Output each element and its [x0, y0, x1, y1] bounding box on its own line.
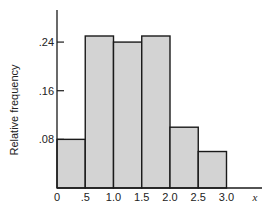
y-ticks: .08.16.24	[39, 36, 64, 145]
x-tick-label: 1.5	[134, 191, 149, 203]
x-axis-label: x	[252, 191, 258, 203]
x-ticks: 0.51.01.52.02.53.0	[54, 191, 234, 203]
histogram-bar	[85, 36, 113, 188]
x-tick-label: .5	[81, 191, 90, 203]
histogram-bar	[142, 36, 170, 188]
x-tick-label: 2.5	[191, 191, 206, 203]
x-tick-label: 2.0	[162, 191, 177, 203]
histogram-chart: .08.16.24 0.51.01.52.02.53.0 Relative fr…	[0, 0, 271, 209]
x-tick-label: 0	[54, 191, 60, 203]
histogram-bar	[170, 127, 198, 188]
y-axis-label: Relative frequency	[8, 64, 20, 156]
histogram-bar	[114, 42, 142, 188]
histogram-bars	[57, 36, 227, 188]
x-tick-label: 1.0	[106, 191, 121, 203]
histogram-bar	[198, 152, 226, 188]
y-tick-label: .24	[39, 36, 54, 48]
y-tick-label: .08	[39, 133, 54, 145]
y-tick-label: .16	[39, 85, 54, 97]
histogram-bar	[57, 139, 85, 188]
x-tick-label: 3.0	[219, 191, 234, 203]
